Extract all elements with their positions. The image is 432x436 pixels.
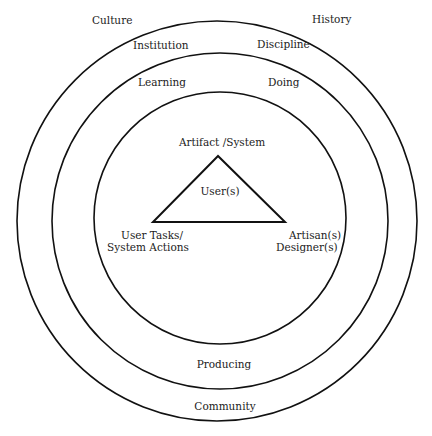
label-learning: Learning xyxy=(138,76,186,88)
label-artisans: Artisan(s) xyxy=(289,229,341,241)
label-doing: Doing xyxy=(268,76,300,88)
label-community: Community xyxy=(194,400,255,412)
label-user-tasks-line2: System Actions xyxy=(107,241,189,253)
label-designers: Designer(s) xyxy=(276,241,338,253)
label-users: User(s) xyxy=(200,185,239,197)
label-history: History xyxy=(312,13,351,25)
label-discipline: Discipline xyxy=(257,38,310,50)
label-user-tasks-line1: User Tasks/ xyxy=(121,229,183,241)
label-institution: Institution xyxy=(133,39,189,51)
label-culture: Culture xyxy=(92,14,132,26)
label-artifact-system: Artifact /System xyxy=(179,136,265,148)
label-producing: Producing xyxy=(197,358,252,370)
concentric-circles-diagram xyxy=(0,0,432,436)
inner-circle xyxy=(94,92,346,344)
